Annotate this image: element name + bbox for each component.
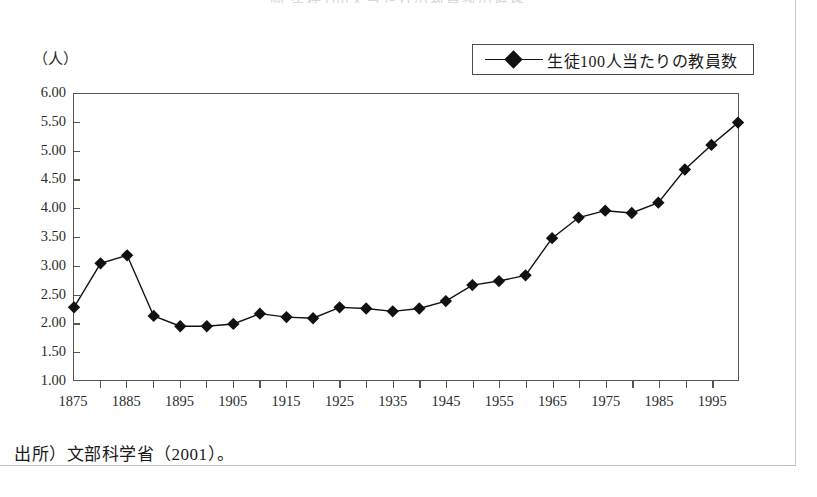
x-tick-mark — [579, 381, 580, 388]
plot-inner — [74, 94, 738, 380]
line-series — [74, 94, 738, 380]
x-tick-mark — [153, 381, 154, 388]
data-point-marker — [174, 320, 186, 332]
x-tick-mark — [339, 381, 340, 388]
page-bottom-rule — [0, 465, 790, 466]
x-tick-label: 1955 — [485, 393, 514, 410]
x-tick-mark — [180, 381, 181, 388]
x-tick-mark — [206, 381, 207, 388]
x-tick-mark — [286, 381, 287, 388]
x-tick-label: 1975 — [591, 393, 620, 410]
data-point-marker — [493, 275, 505, 287]
x-tick-mark — [419, 381, 420, 388]
y-tick-mark — [73, 122, 80, 123]
x-tick-mark — [366, 381, 367, 388]
figure-title: 図 生徒100人当たりの教員数の推移 — [0, 0, 796, 3]
data-point-marker — [387, 305, 399, 317]
x-tick-mark — [553, 381, 554, 388]
x-tick-mark — [659, 381, 660, 388]
y-tick-label: 2.00 — [20, 314, 66, 331]
y-tick-label: 3.50 — [20, 228, 66, 245]
x-tick-label: 1925 — [325, 393, 354, 410]
x-tick-mark — [499, 381, 500, 388]
data-point-marker — [333, 301, 345, 313]
data-point-marker — [546, 232, 558, 244]
y-tick-label: 2.50 — [20, 286, 66, 303]
diamond-marker-icon — [485, 53, 543, 67]
x-tick-mark — [606, 381, 607, 388]
data-point-marker — [626, 207, 638, 219]
x-tick-mark — [126, 381, 127, 388]
data-point-marker — [307, 312, 319, 324]
data-point-marker — [94, 257, 106, 269]
x-tick-label: 1905 — [218, 393, 247, 410]
x-tick-mark — [100, 381, 101, 388]
y-tick-mark — [73, 208, 80, 209]
y-tick-label: 5.50 — [20, 113, 66, 130]
x-tick-mark — [473, 381, 474, 388]
x-tick-label: 1985 — [645, 393, 674, 410]
x-tick-mark — [526, 381, 527, 388]
x-tick-mark — [233, 381, 234, 388]
y-tick-label: 1.50 — [20, 343, 66, 360]
x-tick-label: 1935 — [378, 393, 407, 410]
y-tick-mark — [73, 179, 80, 180]
data-point-marker — [360, 302, 372, 314]
y-tick-label: 5.00 — [20, 142, 66, 159]
legend-item-label: 生徒100人当たりの教員数 — [547, 48, 738, 72]
data-point-marker — [201, 320, 213, 332]
x-tick-mark — [632, 381, 633, 388]
data-point-marker — [68, 301, 80, 313]
y-tick-label: 6.00 — [20, 84, 66, 101]
x-tick-label: 1885 — [112, 393, 141, 410]
y-tick-label: 4.50 — [20, 170, 66, 187]
x-tick-mark — [259, 381, 260, 388]
x-tick-label: 1995 — [698, 393, 727, 410]
y-tick-mark — [73, 323, 80, 324]
y-axis-unit-label: （人） — [33, 47, 78, 68]
x-tick-label: 1915 — [272, 393, 301, 410]
x-tick-mark — [313, 381, 314, 388]
chart-legend: 生徒100人当たりの教員数 — [472, 44, 754, 75]
data-point-marker — [440, 295, 452, 307]
data-point-marker — [466, 279, 478, 291]
data-point-marker — [147, 310, 159, 322]
x-tick-label: 1895 — [165, 393, 194, 410]
page-frame: 図 生徒100人当たりの教員数の推移 （人） 生徒100人当たりの教員数 出所）… — [0, 0, 796, 466]
x-tick-label: 1875 — [59, 393, 88, 410]
y-tick-mark — [73, 295, 80, 296]
x-tick-label: 1965 — [538, 393, 567, 410]
y-tick-label: 3.00 — [20, 257, 66, 274]
x-tick-mark — [393, 381, 394, 388]
y-tick-label: 1.00 — [20, 372, 66, 389]
source-note: 出所）文部科学省（2001）。 — [14, 440, 235, 465]
plot-area — [73, 93, 739, 381]
data-point-marker — [227, 318, 239, 330]
data-point-marker — [280, 311, 292, 323]
y-tick-label: 4.00 — [20, 199, 66, 216]
x-tick-mark — [712, 381, 713, 388]
x-tick-mark — [686, 381, 687, 388]
data-point-marker — [413, 302, 425, 314]
x-tick-label: 1945 — [431, 393, 460, 410]
y-tick-mark — [73, 266, 80, 267]
data-point-marker — [254, 307, 266, 319]
y-tick-mark — [73, 237, 80, 238]
data-point-marker — [572, 211, 584, 223]
data-point-marker — [121, 249, 133, 261]
x-tick-mark — [446, 381, 447, 388]
data-point-marker — [519, 269, 531, 281]
y-tick-mark — [73, 352, 80, 353]
y-tick-mark — [73, 151, 80, 152]
data-point-marker — [599, 205, 611, 217]
series-line — [74, 123, 738, 327]
